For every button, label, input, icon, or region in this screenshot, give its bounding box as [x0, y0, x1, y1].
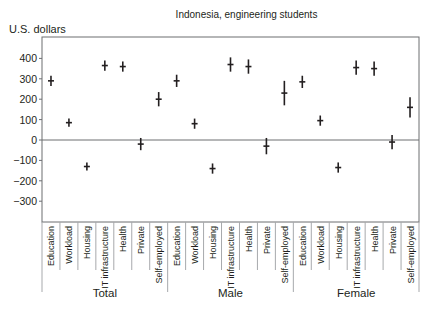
category-label: IT infrastructure [226, 226, 236, 289]
category-label: Housing [208, 226, 218, 259]
category-label: Education [172, 226, 182, 266]
y-tick-label: 100 [19, 114, 37, 126]
group-label: Male [218, 287, 243, 299]
category-label: Self-employed [280, 226, 290, 284]
category-label: Self-employed [406, 226, 416, 284]
category-label: Self-employed [154, 226, 164, 284]
group-label: Total [93, 287, 117, 299]
y-tick-label: 400 [19, 52, 37, 64]
category-label: Housing [82, 226, 92, 259]
category-label: IT infrastructure [352, 226, 362, 289]
category-label: Private [136, 226, 146, 254]
category-label: Workload [64, 226, 74, 264]
category-label: Workload [316, 226, 326, 264]
y-tick-label: −300 [13, 195, 37, 207]
y-tick-label: 300 [19, 73, 37, 85]
chart-plot: 4003002001000−100−200−300EducationWorklo… [0, 0, 433, 309]
category-label: IT infrastructure [100, 226, 110, 289]
category-label: Private [388, 226, 398, 254]
category-label: Housing [334, 226, 344, 259]
category-label: Workload [190, 226, 200, 264]
y-tick-label: −100 [13, 154, 37, 166]
category-label: Health [118, 226, 128, 252]
y-tick-label: 200 [19, 93, 37, 105]
category-label: Education [46, 226, 56, 266]
category-label: Education [298, 226, 308, 266]
group-label: Female [337, 287, 375, 299]
category-label: Private [262, 226, 272, 254]
category-label: Health [244, 226, 254, 252]
category-label: Health [370, 226, 380, 252]
y-tick-label: −200 [13, 175, 37, 187]
y-tick-label: 0 [31, 134, 37, 146]
